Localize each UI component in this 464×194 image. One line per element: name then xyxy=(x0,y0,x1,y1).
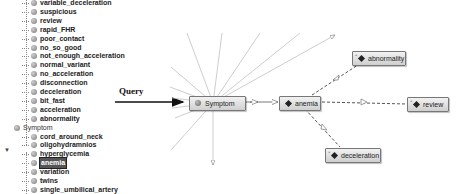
class-icon xyxy=(195,100,201,106)
expand-marker-icon[interactable]: + xyxy=(410,98,412,103)
expand-marker-icon[interactable]: + xyxy=(328,149,330,154)
graph-node-anemia[interactable]: anemia xyxy=(279,96,321,111)
graph-node-abnormality[interactable]: + abnormality xyxy=(352,51,406,66)
graph-node-deceleration[interactable]: + deceleration xyxy=(325,148,381,163)
expand-marker-icon[interactable]: + xyxy=(355,52,357,57)
individual-icon xyxy=(285,100,292,107)
individual-icon xyxy=(358,55,365,62)
graph-node-symptom[interactable]: Symptom xyxy=(189,96,246,111)
individual-icon xyxy=(331,152,338,159)
individual-icon xyxy=(413,101,420,108)
graph-node-review[interactable]: + review xyxy=(407,97,449,112)
